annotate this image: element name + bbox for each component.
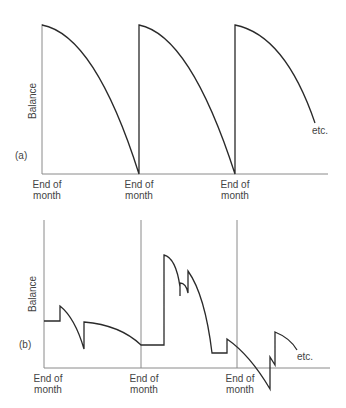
panel-a-etc: etc. bbox=[312, 125, 328, 136]
x-label-line: month bbox=[119, 190, 159, 201]
x-label-line: End of bbox=[28, 373, 68, 384]
x-label-line: End of bbox=[119, 179, 159, 190]
panel-a-x-label-3: End of month bbox=[215, 179, 255, 201]
x-label-line: End of bbox=[124, 373, 164, 384]
x-label-line: End of bbox=[220, 373, 260, 384]
panel-a-balance-curve bbox=[42, 25, 315, 174]
x-label-line: End of bbox=[215, 179, 255, 190]
panel-b-x-label-3: End of month bbox=[220, 373, 260, 395]
panel-b-axes bbox=[44, 220, 330, 368]
panel-a-axes bbox=[42, 24, 328, 174]
x-label-line: month bbox=[28, 384, 68, 395]
panel-b-etc: etc. bbox=[297, 351, 313, 362]
panel-b-x-label-1: End of month bbox=[28, 373, 68, 395]
x-label-line: month bbox=[27, 190, 67, 201]
panel-b-tag: (b) bbox=[19, 339, 31, 350]
panel-b-y-axis-label: Balance bbox=[27, 276, 38, 312]
x-label-line: month bbox=[215, 190, 255, 201]
panel-a-y-axis-label: Balance bbox=[27, 83, 38, 119]
x-label-line: End of bbox=[27, 179, 67, 190]
x-label-line: month bbox=[220, 384, 260, 395]
panel-b-x-label-2: End of month bbox=[124, 373, 164, 395]
panel-b-balance-curve bbox=[44, 255, 297, 389]
panel-a-x-label-1: End of month bbox=[27, 179, 67, 201]
diagram-canvas bbox=[0, 0, 346, 408]
panel-a-tag: (a) bbox=[15, 150, 27, 161]
panel-a-x-label-2: End of month bbox=[119, 179, 159, 201]
x-label-line: month bbox=[124, 384, 164, 395]
